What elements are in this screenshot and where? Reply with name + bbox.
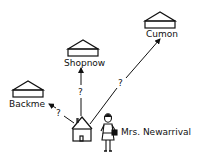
store-building-icon [145, 12, 175, 28]
arrow-to-cumon: ? [90, 39, 160, 124]
woman-figure-icon [101, 114, 117, 151]
arrow-to-backme: ? [49, 104, 74, 123]
store-cumon: Cumon [145, 12, 178, 39]
store-label-shopnow: Shopnow [64, 58, 105, 68]
store-backme: Backme [9, 81, 46, 109]
home-house-icon [72, 117, 92, 141]
store-label-cumon: Cumon [146, 29, 178, 39]
store-choice-diagram: Backme Shopnow Cumon ? ? ? [0, 0, 197, 162]
store-label-backme: Backme [9, 99, 46, 109]
question-mark-backme: ? [56, 108, 61, 118]
store-shopnow: Shopnow [64, 40, 105, 68]
arrow-to-shopnow: ? [78, 68, 83, 116]
question-mark-cumon: ? [118, 78, 123, 88]
question-mark-shopnow: ? [78, 87, 83, 97]
store-building-icon [13, 81, 43, 97]
store-building-icon [68, 40, 98, 56]
person-label: Mrs. Newarrival [121, 127, 191, 137]
